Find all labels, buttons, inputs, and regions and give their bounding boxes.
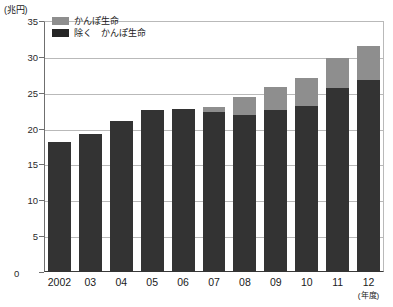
bar-segment-kampo[interactable]: [357, 46, 380, 80]
x-tick-label: 12: [353, 276, 384, 288]
bar-segment-excluding-kampo[interactable]: [141, 110, 164, 272]
y-tick-label: 20: [8, 123, 38, 134]
bar-group[interactable]: [48, 21, 71, 272]
bar-group[interactable]: [203, 21, 226, 272]
bar-group[interactable]: [326, 21, 349, 272]
x-tick-label: 11: [322, 276, 353, 288]
bar-segment-kampo[interactable]: [264, 87, 287, 110]
x-axis-unit-note: (年度): [353, 289, 384, 300]
x-tick-label: 07: [199, 276, 230, 288]
y-tick-label: 10: [8, 195, 38, 206]
legend-label: 除く かんぽ生命: [74, 28, 146, 38]
bar-segment-kampo[interactable]: [233, 97, 256, 115]
bar-group[interactable]: [264, 21, 287, 272]
bar-segment-excluding-kampo[interactable]: [79, 134, 102, 272]
legend-label: かんぽ生命: [74, 16, 119, 26]
y-tick-label: 15: [8, 159, 38, 170]
y-axis-unit-label: (兆円): [4, 3, 27, 16]
y-axis-zero-label: 0: [14, 268, 19, 279]
x-axis-labels: 200203040506070809101112(年度): [44, 276, 384, 306]
bar-group[interactable]: [110, 21, 133, 272]
bar-segment-excluding-kampo[interactable]: [172, 109, 195, 272]
bar-group[interactable]: [233, 21, 256, 272]
bar-segment-kampo[interactable]: [295, 78, 318, 106]
x-tick-label: 05: [137, 276, 168, 288]
bar-segment-excluding-kampo[interactable]: [326, 88, 349, 272]
bar-group[interactable]: [172, 21, 195, 272]
chart-legend: かんぽ生命除く かんぽ生命: [52, 16, 146, 38]
bar-segment-excluding-kampo[interactable]: [295, 106, 318, 272]
legend-item: かんぽ生命: [52, 16, 146, 26]
bar-segment-excluding-kampo[interactable]: [233, 115, 256, 272]
x-tick-label: 09: [260, 276, 291, 288]
bar-group[interactable]: [79, 21, 102, 272]
bar-group[interactable]: [295, 21, 318, 272]
x-tick-label: 03: [75, 276, 106, 288]
bars-layer: [44, 21, 384, 272]
bar-segment-excluding-kampo[interactable]: [357, 80, 380, 272]
y-tick-label: 25: [8, 87, 38, 98]
bar-group[interactable]: [141, 21, 164, 272]
x-tick-label: 2002: [44, 276, 75, 288]
y-tick-label: 35: [8, 16, 38, 27]
bar-segment-excluding-kampo[interactable]: [264, 110, 287, 272]
bar-segment-excluding-kampo[interactable]: [203, 112, 226, 272]
x-tick-label: 08: [229, 276, 260, 288]
bar-chart: (兆円) 5101520253035 200203040506070809101…: [0, 0, 393, 307]
bar-group[interactable]: [357, 21, 380, 272]
y-tick-label: 30: [8, 51, 38, 62]
y-tick-mark: [39, 272, 44, 273]
x-tick-label: 04: [106, 276, 137, 288]
bar-segment-kampo[interactable]: [326, 58, 349, 87]
x-tick-label: 06: [168, 276, 199, 288]
y-tick-label: 5: [8, 231, 38, 242]
bar-segment-excluding-kampo[interactable]: [110, 121, 133, 272]
legend-item: 除く かんぽ生命: [52, 28, 146, 38]
legend-swatch-icon: [52, 29, 69, 37]
x-tick-label: 10: [291, 276, 322, 288]
legend-swatch-icon: [52, 17, 69, 25]
bar-segment-excluding-kampo[interactable]: [48, 142, 71, 272]
